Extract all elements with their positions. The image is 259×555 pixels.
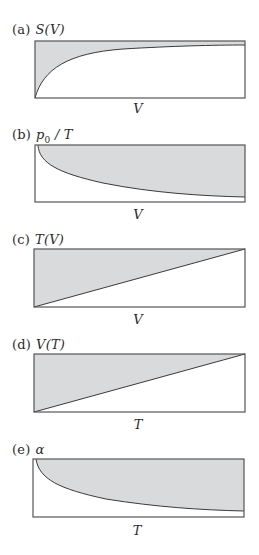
- plot-t-of-v: [32, 247, 248, 310]
- x-axis-label: V: [133, 101, 142, 116]
- panel-quantity: V(T): [36, 337, 65, 352]
- panel-quantity-rest: / T: [51, 127, 73, 142]
- panel-b-title: (b)p0 / T: [12, 127, 73, 145]
- panel-d-title: (d)V(T): [12, 337, 65, 352]
- x-axis-label: V: [133, 312, 142, 327]
- plot-v-of-t: [32, 352, 248, 415]
- panel-letter: (b): [12, 127, 31, 142]
- x-axis-label: T: [133, 523, 142, 538]
- panel-quantity: T(V): [35, 232, 64, 247]
- plot-alpha: [31, 457, 247, 520]
- panel-c-title: (c)T(V): [12, 232, 64, 247]
- plot-s-of-v: [33, 39, 248, 101]
- panel-letter: (c): [12, 232, 30, 247]
- panel-letter: (d): [12, 337, 31, 352]
- x-axis-label: T: [134, 417, 143, 432]
- panel-a-title: (a)S(V): [12, 22, 65, 37]
- x-axis-label: V: [133, 207, 142, 222]
- panel-quantity: p: [36, 127, 45, 142]
- panel-e-title: (e)α: [12, 442, 44, 457]
- plot-p0-over-t: [33, 143, 248, 205]
- panel-quantity: α: [35, 442, 44, 457]
- panel-quantity: S(V): [36, 22, 65, 37]
- panel-letter: (e): [12, 442, 30, 457]
- panel-letter: (a): [12, 22, 31, 37]
